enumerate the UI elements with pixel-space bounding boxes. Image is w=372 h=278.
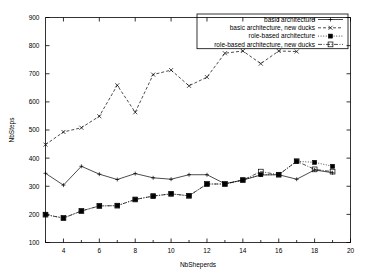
x-tick-label: 14	[239, 247, 247, 254]
y-tick-label: 300	[29, 183, 40, 190]
y-tick-label: 200	[29, 211, 40, 218]
x-tick-label: 6	[98, 247, 102, 254]
x-axis-title: NbSheperds	[180, 261, 217, 269]
x-tick-label: 4	[62, 247, 66, 254]
data-point-marker	[187, 84, 191, 88]
y-tick-label: 900	[29, 14, 40, 21]
y-axis-title: NbSteps	[8, 117, 16, 143]
y-tick-label: 700	[29, 70, 40, 77]
data-point-marker	[151, 176, 155, 180]
legend-label: basic architecture	[264, 16, 315, 23]
y-tick-label: 500	[29, 126, 40, 133]
data-point-marker	[79, 126, 83, 130]
legend-label: basic architecture, new ducks	[230, 24, 316, 31]
data-point-marker	[205, 173, 209, 177]
legend-label: role-based architecture	[249, 32, 316, 39]
plot-border	[46, 18, 351, 243]
filled-square-marker	[329, 34, 333, 38]
y-tick-label: 800	[29, 42, 40, 49]
data-point-marker	[169, 177, 173, 181]
data-point-marker	[97, 172, 101, 176]
series-1	[44, 164, 335, 187]
x-tick-label: 12	[203, 247, 211, 254]
line-chart: 1002003004005006007008009004681012141618…	[0, 0, 372, 278]
data-point-marker	[133, 110, 137, 114]
data-point-marker	[44, 171, 48, 175]
data-point-marker	[331, 164, 335, 168]
data-point-marker	[169, 68, 173, 72]
series-2	[44, 49, 299, 147]
data-point-marker	[259, 62, 263, 66]
data-point-marker	[97, 114, 101, 118]
plus-marker	[329, 18, 333, 22]
legend-label: role-based architecture, new ducks	[214, 41, 316, 48]
data-point-marker	[115, 83, 119, 87]
x-tick-label: 16	[275, 247, 283, 254]
legend-group: basic architecturebasic architecture, ne…	[197, 14, 348, 49]
x-tick-label: 20	[347, 247, 355, 254]
data-point-marker	[187, 173, 191, 177]
x-tick-label: 10	[167, 247, 175, 254]
y-tick-label: 400	[29, 155, 40, 162]
axes-group: 1002003004005006007008009004681012141618…	[8, 14, 354, 269]
series-4	[43, 159, 335, 221]
data-point-marker	[295, 177, 299, 181]
y-tick-label: 600	[29, 98, 40, 105]
data-point-marker	[115, 178, 119, 182]
data-point-marker	[133, 172, 137, 176]
chart-container: 1002003004005006007008009004681012141618…	[0, 0, 372, 278]
x-tick-label: 8	[133, 247, 137, 254]
data-point-marker	[61, 130, 65, 134]
y-tick-label: 100	[29, 239, 40, 246]
series-3	[44, 159, 335, 220]
data-point-marker	[259, 173, 263, 177]
x-tick-label: 18	[311, 247, 319, 254]
data-point-marker	[205, 75, 209, 79]
data-point-marker	[313, 160, 317, 164]
series-group	[43, 49, 335, 220]
